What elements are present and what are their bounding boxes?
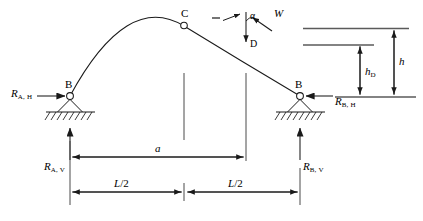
load-arrow-w xyxy=(253,18,273,32)
reaction-label-ah-base: R xyxy=(11,87,18,99)
dim-label-half-right: L/2 xyxy=(228,178,243,189)
reaction-label-av-base: R xyxy=(44,160,51,172)
reaction-label-bv-base: R xyxy=(303,160,310,172)
arch-diagram-svg xyxy=(0,0,423,221)
dim-label-hd: hD xyxy=(365,66,376,77)
dim-label-half-left: L/2 xyxy=(114,178,129,189)
diagram-canvas: C D W α B B RA, H RA, V RB, H RB, V h hD… xyxy=(0,0,423,221)
point-label-d: D xyxy=(250,39,257,49)
dim-label-half-left-rest: /2 xyxy=(120,177,129,189)
reaction-label-av-sub: A, V xyxy=(51,166,65,174)
reaction-label-bh: RB, H xyxy=(335,96,356,107)
reaction-label-av: RA, V xyxy=(44,161,65,172)
dim-label-h: h xyxy=(399,56,405,67)
support-label-b-left: B xyxy=(65,79,72,90)
angle-indicator-arrow xyxy=(223,14,240,21)
ground-hatching-right xyxy=(275,112,322,120)
load-label-w: W xyxy=(274,8,283,19)
reaction-label-ah: RA, H xyxy=(11,88,32,99)
dim-label-a: a xyxy=(155,143,161,154)
reaction-label-bh-base: R xyxy=(335,95,342,107)
reaction-label-ah-sub: A, H xyxy=(18,93,32,101)
dim-label-half-right-rest: /2 xyxy=(234,177,243,189)
crown-label-c: C xyxy=(181,8,188,19)
rise-dimensions xyxy=(360,30,394,95)
reaction-label-bv-sub: B, V xyxy=(310,166,324,174)
load-group xyxy=(212,12,272,42)
support-label-b-right: B xyxy=(295,79,302,90)
reaction-arrows xyxy=(37,96,333,160)
dim-label-hd-sub: D xyxy=(371,71,376,79)
right-support xyxy=(275,93,325,120)
reaction-label-bv: RB, V xyxy=(303,161,324,172)
ground-hatching-left xyxy=(45,112,92,120)
extension-lines xyxy=(70,73,300,205)
dim-label-hd-base: h xyxy=(365,65,371,77)
left-support xyxy=(45,93,95,120)
crown-hinge xyxy=(181,22,188,29)
reaction-label-bh-sub: B, H xyxy=(342,101,356,109)
angle-label-alpha: α xyxy=(250,11,255,21)
